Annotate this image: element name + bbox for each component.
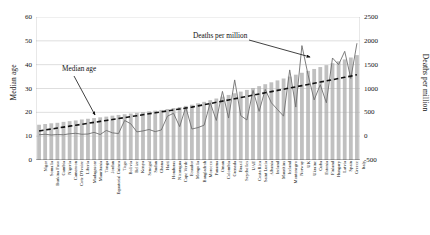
x-axis-label: Madagascar bbox=[90, 161, 95, 183]
x-axis-label: Saint Lucia bbox=[261, 161, 266, 182]
x-axis-label: Mauritius bbox=[279, 161, 284, 179]
x-axis-category-labels: NigerSomaliaBurkina FasoGambiaNigeriaCam… bbox=[36, 161, 360, 233]
y-tick-right--500: -500 bbox=[364, 156, 390, 164]
x-axis-label: Italy bbox=[359, 161, 364, 169]
x-axis-label: Latvia bbox=[340, 161, 345, 173]
x-axis-label: Kenya bbox=[138, 161, 143, 173]
x-axis-label: Oman bbox=[218, 161, 223, 172]
y-tick-left-0: 0 bbox=[10, 156, 32, 164]
y-tick-left-40: 40 bbox=[10, 61, 32, 69]
x-axis-label: Brazil bbox=[236, 161, 241, 172]
x-axis-label: Cameroon bbox=[71, 161, 76, 180]
y-tick-right-2500: 2500 bbox=[364, 13, 390, 21]
x-axis-label: Norway bbox=[297, 161, 302, 176]
x-axis-label: Morocco bbox=[206, 161, 211, 178]
x-axis-label: Cote D'Ivoire bbox=[77, 161, 82, 186]
x-axis-label: Senegal bbox=[145, 161, 150, 176]
x-axis-label: Nigeria bbox=[65, 161, 70, 175]
y-tick-right-2000: 2000 bbox=[364, 37, 390, 45]
x-axis-label: Gambia bbox=[59, 161, 64, 176]
median-age-annotation-label: Median age bbox=[62, 64, 96, 73]
x-axis-label: Mauritania bbox=[96, 161, 101, 181]
x-axis-label: Nicaragua bbox=[175, 161, 180, 180]
x-axis-label: Estonia bbox=[322, 161, 327, 175]
y-tick-left-20: 20 bbox=[10, 108, 32, 116]
x-axis-label: Hungary bbox=[334, 161, 339, 177]
y-tick-right-1000: 1000 bbox=[364, 85, 390, 93]
x-axis-label: Haiti bbox=[163, 161, 168, 170]
x-axis-label: Tonga bbox=[102, 161, 107, 172]
x-axis-label: Ecuador bbox=[187, 161, 192, 176]
x-axis-label: Colombia bbox=[224, 161, 229, 179]
x-axis-label: Somalia bbox=[47, 161, 52, 176]
y-tick-right-0: 0 bbox=[364, 132, 390, 140]
y-tick-right-500: 500 bbox=[364, 108, 390, 116]
deaths-per-million-annotation-label: Deaths per million bbox=[193, 31, 247, 40]
y-tick-left-50: 50 bbox=[10, 37, 32, 45]
x-axis-label: Bolivia bbox=[126, 161, 131, 175]
x-axis-label: Togo bbox=[120, 161, 125, 170]
x-axis-label: Niger bbox=[41, 161, 46, 171]
y-tick-left-60: 60 bbox=[10, 13, 32, 21]
x-axis-label: UK bbox=[304, 161, 309, 168]
x-axis-label: Albania bbox=[267, 161, 272, 176]
x-axis-label: Burkina Faso bbox=[53, 161, 58, 186]
x-axis-label: Sudan bbox=[151, 161, 156, 172]
x-axis-label: Equatorial Guinea bbox=[114, 161, 119, 195]
x-axis-label: Cape Verde bbox=[181, 161, 186, 182]
x-axis-label: Belize bbox=[132, 161, 137, 173]
y-tick-left-10: 10 bbox=[10, 132, 32, 140]
x-axis-label: Finland bbox=[328, 161, 333, 175]
x-axis-label: Costa Rica bbox=[255, 161, 260, 181]
x-axis-label: Ireland bbox=[273, 161, 278, 174]
x-axis-label: Grenada bbox=[230, 161, 235, 177]
x-axis-label: Montenegro bbox=[291, 161, 296, 183]
x-axis-label: Panama bbox=[212, 161, 217, 176]
y-tick-left-30: 30 bbox=[10, 85, 32, 93]
x-axis-label: Cuba bbox=[316, 161, 321, 171]
y-axis-right-title: Deaths per million bbox=[421, 41, 430, 125]
y-tick-right-1500: 1500 bbox=[364, 61, 390, 69]
x-axis-label: Bangladesh bbox=[200, 161, 205, 182]
x-axis-label: Ukraine bbox=[310, 161, 315, 176]
x-axis-label: Iceland bbox=[285, 161, 290, 175]
x-axis-label: Liberia bbox=[83, 161, 88, 174]
x-axis-label: Jordan bbox=[108, 161, 113, 173]
x-axis-label: Mongolia bbox=[193, 161, 198, 179]
x-axis-label: Ghana bbox=[157, 161, 162, 173]
x-axis-label: Greece bbox=[352, 161, 357, 174]
y-axis-left-title: Median age bbox=[9, 48, 18, 118]
x-axis-label: Spain bbox=[346, 161, 351, 171]
x-axis-label: Seychelles bbox=[242, 161, 247, 181]
x-axis-label: Honduras bbox=[169, 161, 174, 179]
x-axis-label: UAE bbox=[249, 161, 254, 170]
